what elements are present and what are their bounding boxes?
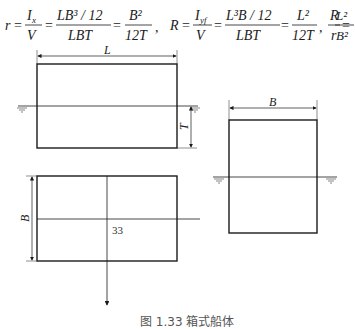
section-breadth-label: B [269, 95, 277, 109]
section-hull-rect [229, 120, 317, 233]
waterline-symbol-icon [326, 179, 336, 183]
plan-view: B 33 [18, 176, 200, 305]
waterline-symbol-icon [17, 108, 27, 112]
formula-ratio-rhs: L² B² [0, 0, 355, 50]
breadth-label: B [18, 214, 32, 222]
svg-text:B²: B² [336, 28, 349, 43]
waterline-symbol-icon [190, 108, 200, 112]
svg-text:L²: L² [335, 8, 348, 23]
center-label: 33 [112, 224, 124, 236]
figure-caption: 图 1.33 箱式船体 [140, 312, 234, 329]
waterline-symbol-icon [214, 179, 224, 183]
draft-label: T [177, 122, 191, 130]
side-view: L T [17, 43, 200, 148]
section-view: B [213, 95, 337, 233]
